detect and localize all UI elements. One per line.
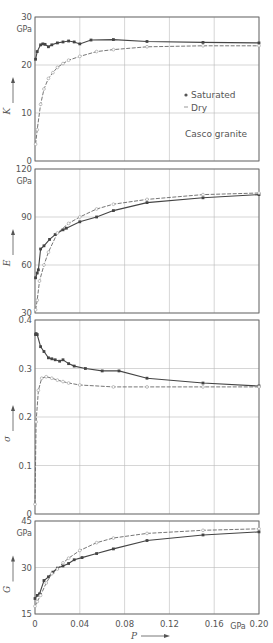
data-point-dry: [95, 541, 98, 544]
data-point-dry: [146, 532, 149, 535]
y-axis-arrow-icon: [11, 229, 15, 235]
data-point-dry: [36, 299, 39, 302]
data-point-saturated: [95, 216, 98, 219]
data-point-dry: [50, 377, 53, 380]
data-point-saturated: [58, 360, 61, 363]
data-point-saturated: [202, 382, 205, 385]
data-point-saturated: [202, 196, 205, 199]
data-point-saturated: [112, 209, 115, 212]
data-point-dry: [258, 44, 261, 47]
y-unit-label: GPa: [16, 25, 32, 34]
data-point-saturated: [78, 220, 81, 223]
data-point-saturated: [146, 40, 149, 43]
data-point-dry: [62, 561, 65, 564]
y-tick-label: 0.2: [18, 412, 32, 422]
y-axis-arrow-icon: [11, 405, 15, 411]
data-point-dry: [36, 128, 39, 131]
data-point-saturated: [202, 534, 205, 537]
y-tick-label: 0.1: [18, 461, 32, 471]
y-axis-arrow-icon: [11, 556, 15, 562]
data-point-dry: [112, 386, 115, 389]
x-axis-label: P: [130, 631, 138, 641]
data-point-saturated: [67, 562, 70, 565]
data-point-saturated: [37, 268, 40, 271]
data-point-dry: [43, 88, 46, 91]
x-tick-label: 0.08: [115, 619, 134, 629]
data-point-dry: [36, 600, 39, 603]
data-point-dry: [43, 264, 46, 267]
rock-sample-label: Casco granite: [185, 129, 247, 139]
data-point-dry: [62, 62, 65, 65]
figure: 0102030GPaK306090120GPaE00.10.20.30.4σ15…: [0, 0, 273, 643]
data-point-saturated: [146, 377, 149, 380]
y-tick-label: 15: [21, 609, 32, 619]
legend: Saturated Dry Casco granite: [184, 90, 247, 139]
data-point-dry: [39, 594, 42, 597]
dry-marker-icon: [184, 106, 188, 108]
data-point-dry: [67, 557, 70, 560]
data-point-dry: [95, 208, 98, 211]
x-unit-label: GPa: [230, 622, 246, 631]
data-point-dry: [146, 386, 149, 389]
y-tick-label: 45: [21, 516, 32, 526]
x-axis-arrow-icon: [141, 634, 170, 638]
panel-σ: 00.10.20.30.4σ: [2, 315, 260, 519]
data-point-saturated: [47, 575, 50, 578]
data-point-saturated: [47, 356, 50, 359]
data-point-dry: [34, 503, 37, 506]
data-point-saturated: [43, 244, 46, 247]
data-point-saturated: [67, 40, 70, 43]
y-unit-label: GPa: [16, 177, 32, 186]
data-point-dry: [112, 48, 115, 51]
x-tick-label: 0.04: [70, 619, 89, 629]
data-point-dry: [78, 549, 81, 552]
x-axis: 00.040.080.120.160.20 GPa P: [32, 619, 268, 641]
x-tick-label: 0: [32, 619, 37, 629]
data-point-saturated: [73, 41, 76, 44]
data-point-saturated: [54, 358, 57, 361]
data-point-saturated: [258, 42, 261, 45]
y-tick-label: 90: [21, 212, 32, 222]
data-point-dry: [47, 251, 50, 254]
data-point-dry: [146, 45, 149, 48]
legend-saturated-label: Saturated: [191, 90, 235, 100]
data-point-dry: [50, 572, 53, 575]
data-point-dry: [258, 192, 261, 195]
data-point-saturated: [34, 276, 37, 279]
data-point-saturated: [43, 350, 46, 353]
data-point-saturated: [34, 597, 37, 600]
data-point-saturated: [36, 50, 39, 53]
data-point-dry: [258, 527, 261, 530]
data-point-dry: [47, 77, 50, 80]
y-tick-label: 20: [21, 60, 32, 70]
y-axis-label: K: [2, 106, 12, 115]
data-point-saturated: [62, 228, 65, 231]
data-point-saturated: [146, 201, 149, 204]
data-point-saturated: [50, 357, 53, 360]
data-point-saturated: [146, 539, 149, 542]
panels: 0102030GPaK306090120GPaE00.10.20.30.4σ15…: [2, 12, 260, 619]
data-point-saturated: [56, 42, 59, 45]
x-tick-label: 0.20: [250, 619, 269, 629]
data-point-dry: [34, 143, 37, 146]
data-point-saturated: [67, 362, 70, 365]
data-point-dry: [258, 386, 261, 389]
panel-K: 0102030GPaK: [2, 12, 260, 166]
y-tick-label: 30: [21, 563, 32, 573]
series-line-dry: [35, 377, 259, 505]
data-point-dry: [78, 384, 81, 387]
data-point-saturated: [36, 272, 39, 275]
saturated-marker-icon: [184, 93, 187, 96]
data-point-dry: [78, 55, 81, 58]
y-tick-label: 120: [16, 164, 32, 174]
data-point-dry: [56, 379, 59, 382]
data-point-dry: [202, 44, 205, 47]
data-point-saturated: [112, 548, 115, 551]
data-point-dry: [56, 232, 59, 235]
data-point-dry: [35, 420, 38, 423]
data-point-dry: [34, 605, 37, 608]
y-tick-label: 0.3: [18, 364, 32, 374]
series-line-dry: [36, 193, 259, 310]
plot-frame: [35, 169, 259, 313]
data-point-saturated: [78, 42, 81, 45]
